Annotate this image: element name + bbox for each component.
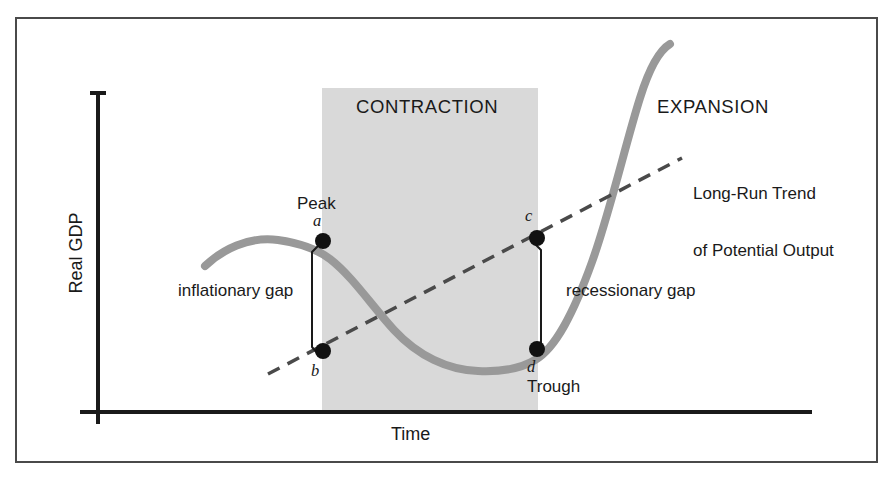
point-d-label: d (527, 358, 535, 376)
inflationary-gap-label: inflationary gap (178, 281, 293, 300)
recessionary-gap-label: recessionary gap (566, 281, 695, 300)
trough-label: Trough (527, 377, 580, 396)
long-run-trend-label-line2: of Potential Output (693, 241, 834, 260)
x-axis (80, 412, 812, 424)
long-run-trend-label: Long-Run Trend of Potential Output (693, 146, 834, 298)
point-a-marker (315, 233, 331, 249)
point-a-label: a (313, 212, 321, 230)
point-b-marker (315, 343, 331, 359)
inflationary-gap-bracket (312, 246, 318, 354)
business-cycle-figure: Real GDP Time CONTRACTION EXPANSION Long… (0, 0, 896, 481)
expansion-label: EXPANSION (657, 97, 769, 118)
point-d-marker (529, 341, 545, 357)
point-b-label: b (311, 362, 319, 380)
y-axis-label: Real GDP (66, 173, 86, 333)
point-c-marker (529, 230, 545, 246)
contraction-label: CONTRACTION (356, 97, 498, 118)
point-c-label: c (525, 207, 532, 225)
long-run-trend-label-line1: Long-Run Trend (693, 184, 834, 203)
y-axis (90, 93, 106, 412)
x-axis-label: Time (391, 424, 430, 444)
